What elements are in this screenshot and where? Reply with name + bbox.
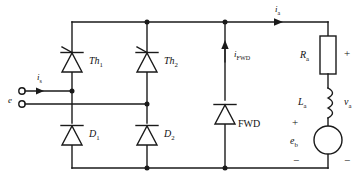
junction-dot [145, 166, 150, 171]
junction-dot [223, 166, 228, 171]
inductor-body-icon [328, 88, 333, 118]
terminal-voltage-label: va [344, 97, 351, 110]
thyristor1-body-icon [62, 53, 82, 72]
diode2-label: D2 [164, 129, 175, 142]
source-current-label: is [37, 73, 42, 84]
diode2-body-icon [137, 126, 157, 145]
thyristor2-label: Th2 [164, 56, 178, 69]
terminal-voltage-plus-sign: + [344, 48, 350, 59]
resistance-label: Ra [300, 50, 309, 63]
fwd-device-label: FWD [238, 119, 260, 129]
junction-dot [223, 20, 228, 25]
diode1-body-icon [62, 126, 82, 145]
armature-current-arrow-icon [274, 18, 283, 25]
source-voltage-label: e [8, 96, 12, 105]
terminal-voltage-minus-sign: − [344, 155, 350, 166]
inductance-label: La [298, 97, 307, 110]
back-emf-source-icon [314, 126, 342, 154]
circuit-diagram: e is Th1 Th2 D1 D2 iFWD FWD ia Ra La va … [0, 0, 354, 182]
diode1-label: D1 [89, 129, 100, 142]
thyristor2-body-icon [137, 53, 157, 72]
junction-dot [145, 20, 150, 25]
resistor-body-icon [320, 36, 336, 74]
thyristor1-gate-lead [62, 47, 72, 53]
source-current-arrow-icon [36, 88, 44, 95]
ac-terminal-bottom-icon [19, 101, 25, 107]
ac-terminal-top-icon [19, 88, 25, 94]
thyristor2-gate-lead [137, 47, 147, 53]
armature-current-label: ia [275, 5, 280, 16]
schematic-canvas [0, 0, 354, 182]
back-emf-minus-sign: − [293, 155, 299, 166]
back-emf-label: eb [290, 136, 298, 149]
fwd-current-arrow-icon [221, 40, 228, 49]
back-emf-plus-sign: + [292, 117, 298, 128]
thyristor1-label: Th1 [89, 56, 103, 69]
fwd-current-label: iFWD [234, 50, 250, 61]
junction-dot [145, 102, 150, 107]
fwd-body-icon [215, 105, 235, 124]
junction-dot [70, 89, 75, 94]
